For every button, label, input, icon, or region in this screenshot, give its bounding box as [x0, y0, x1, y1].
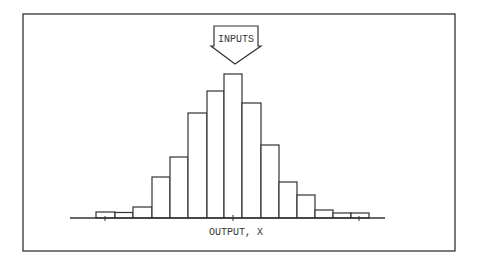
histogram-bar — [224, 74, 242, 218]
histogram-bar — [207, 91, 224, 218]
x-axis-label: OUTPUT, X — [209, 227, 263, 238]
histogram-bar — [351, 213, 369, 218]
histogram-bar — [333, 213, 351, 218]
histogram-bar — [188, 113, 207, 218]
histogram-bar — [152, 177, 170, 218]
histogram-bar — [115, 213, 133, 219]
histogram-bar — [170, 157, 188, 218]
inputs-label: INPUTS — [218, 34, 254, 45]
histogram-bar — [315, 210, 333, 218]
histogram-bar — [297, 195, 315, 218]
histogram-bar — [133, 207, 152, 218]
histogram-bar — [261, 145, 279, 218]
histogram-bar — [242, 103, 261, 218]
histogram-bar — [279, 182, 297, 218]
histogram-figure: INPUTS OUTPUT, X — [0, 0, 477, 265]
